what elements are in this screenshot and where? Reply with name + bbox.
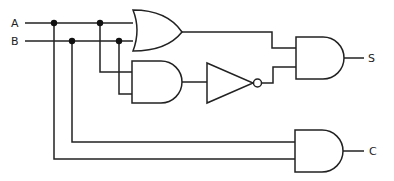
input-label-b: B: [11, 35, 19, 48]
junction-dot-b1: [69, 38, 75, 44]
junction-dot-a1: [51, 20, 57, 26]
junction-dot-a2: [97, 20, 103, 26]
output-label-s: S: [368, 52, 375, 65]
not-gate: [207, 63, 253, 103]
and-gate-sum: [296, 37, 344, 79]
wire-b-to-carry: [72, 41, 295, 142]
and-gate-carry: [295, 130, 343, 172]
output-label-c: C: [369, 145, 377, 158]
junction-dot-b2: [116, 38, 122, 44]
and-gate-middle: [132, 61, 182, 103]
wire-or-output: [182, 32, 296, 48]
wire-b-to-and1: [119, 41, 132, 94]
half-adder-diagram: A B S C: [0, 0, 394, 181]
not-bubble-icon: [254, 79, 262, 87]
wire-a-to-and1: [100, 23, 132, 72]
wire-not-output: [262, 67, 297, 83]
or-gate: [133, 10, 182, 51]
input-label-a: A: [11, 17, 19, 30]
